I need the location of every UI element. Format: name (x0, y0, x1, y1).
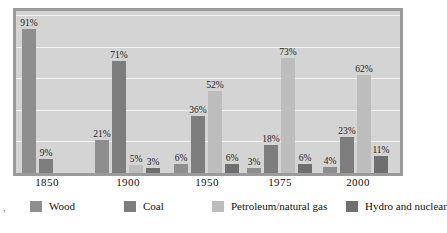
bar-1900-petroleum-natural-gas: 5% (129, 11, 143, 173)
bar-rect (357, 75, 371, 173)
bar-rect (323, 167, 337, 173)
bar-group-1850: 91%9% (22, 11, 74, 173)
bar-group-1975: 3%18%73%6% (247, 11, 319, 173)
legend-item-wood[interactable]: Wood (30, 200, 75, 212)
bar-value-label: 3% (248, 157, 261, 167)
bar-value-label: 6% (175, 153, 188, 163)
bar-2000-petroleum-natural-gas: 62% (357, 11, 371, 173)
bar-value-label: 9% (40, 148, 53, 158)
bar-group-1950: 6%36%52%6% (174, 11, 246, 173)
bar-1900-coal: 71% (112, 11, 126, 173)
bar-value-label: 6% (299, 153, 312, 163)
bar-rect (374, 156, 388, 173)
x-tick-2000: 2000 (346, 176, 370, 188)
chart-legend: WoodCoalPetroleum/natural gasHydro and n… (16, 196, 406, 216)
bar-rect (174, 164, 188, 173)
bar-rect (247, 168, 261, 173)
bar-value-label: 71% (110, 50, 127, 60)
bars-layer: 91%9%21%71%5%3%6%36%52%6%3%18%73%6%4%23%… (16, 11, 400, 173)
legend-swatch (346, 201, 358, 212)
bar-rect (146, 168, 160, 173)
legend-label: Petroleum/natural gas (231, 200, 327, 212)
bar-value-label: 6% (226, 153, 239, 163)
bar-1900-hydro-and-nuclear: 3% (146, 11, 160, 173)
bar-1950-wood: 6% (174, 11, 188, 173)
x-tick-1850: 1850 (35, 176, 59, 188)
bar-1975-hydro-and-nuclear: 6% (298, 11, 312, 173)
legend-swatch (30, 201, 42, 212)
bar-value-label: 5% (130, 154, 143, 164)
x-axis: 18501900195019752000 (16, 176, 400, 192)
bar-rect (95, 140, 109, 173)
bar-rect (208, 91, 222, 173)
bar-1900-wood: 21% (95, 11, 109, 173)
bar-value-label: 3% (147, 157, 160, 167)
bar-value-label: 73% (279, 47, 296, 57)
bar-value-label: 23% (338, 126, 355, 136)
bar-value-label: 11% (372, 145, 389, 155)
bar-value-label: 91% (20, 18, 37, 28)
legend-item-coal[interactable]: Coal (124, 200, 164, 212)
x-tick-1975: 1975 (268, 176, 292, 188)
x-tick-1900: 1900 (116, 176, 140, 188)
x-tick-1950: 1950 (195, 176, 219, 188)
bar-rect (129, 165, 143, 173)
bar-rect (264, 145, 278, 173)
legend-item-petroleum-natural-gas[interactable]: Petroleum/natural gas (212, 200, 327, 212)
bar-value-label: 21% (93, 129, 110, 139)
bar-1950-petroleum-natural-gas: 52% (208, 11, 222, 173)
legend-item-hydro-and-nuclear[interactable]: Hydro and nuclear (346, 200, 447, 212)
bar-rect (191, 116, 205, 173)
bar-2000-wood: 4% (323, 11, 337, 173)
bar-rect (281, 58, 295, 173)
bar-rect (225, 164, 239, 173)
bar-1950-hydro-and-nuclear: 6% (225, 11, 239, 173)
bar-1975-petroleum-natural-gas: 73% (281, 11, 295, 173)
bar-1850-coal: 9% (39, 11, 53, 173)
bar-value-label: 18% (262, 134, 279, 144)
bar-2000-coal: 23% (340, 11, 354, 173)
bar-rect (22, 29, 36, 173)
bar-group-2000: 4%23%62%11% (323, 11, 395, 173)
bar-rect (298, 164, 312, 173)
bar-1850-wood: 91% (22, 11, 36, 173)
bar-rect (340, 137, 354, 173)
bar-1950-coal: 36% (191, 11, 205, 173)
stray-ink-mark: , (3, 203, 6, 213)
bar-1975-coal: 18% (264, 11, 278, 173)
legend-swatch (124, 201, 136, 212)
bar-value-label: 52% (206, 80, 223, 90)
bar-group-1900: 21%71%5%3% (95, 11, 167, 173)
bar-2000-hydro-and-nuclear: 11% (374, 11, 388, 173)
legend-swatch (212, 201, 224, 212)
bar-rect (112, 61, 126, 173)
bar-value-label: 62% (355, 64, 372, 74)
legend-label: Hydro and nuclear (365, 200, 447, 212)
legend-label: Wood (49, 200, 75, 212)
bar-rect (39, 159, 53, 173)
bar-value-label: 4% (324, 156, 337, 166)
legend-label: Coal (143, 200, 164, 212)
bar-value-label: 36% (189, 105, 206, 115)
bar-1975-wood: 3% (247, 11, 261, 173)
